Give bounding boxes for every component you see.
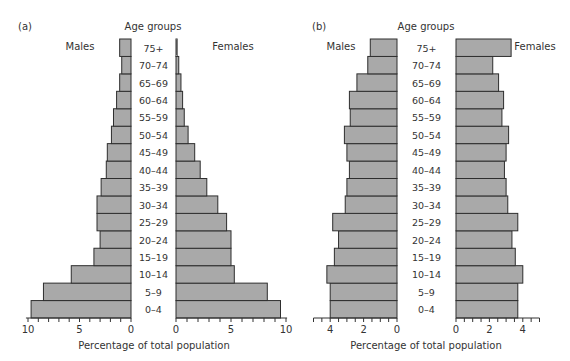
male-bar-0-4 xyxy=(330,301,397,318)
male-bar-25-29 xyxy=(97,213,131,230)
male-bar-65-69 xyxy=(120,74,131,91)
male-bar-25-29 xyxy=(333,213,397,230)
age-group-label: 20–24 xyxy=(412,235,441,246)
female-bar-60-64 xyxy=(456,91,504,108)
male-bar-75+ xyxy=(120,39,131,56)
female-bar-30-34 xyxy=(176,196,218,213)
panel-b-age-labels: 0–45–910–1415–1920–2425–2930–3435–3940–4… xyxy=(412,43,441,316)
x-tick-label: 5 xyxy=(76,324,82,335)
age-group-label: 75+ xyxy=(143,43,163,54)
male-bar-45-49 xyxy=(107,144,131,161)
age-group-label: 35–39 xyxy=(139,182,168,193)
male-bar-50-54 xyxy=(344,126,397,143)
x-tick-label: 5 xyxy=(228,324,234,335)
population-pyramids-figure: (a) Age groups Males Females 0–45–910–14… xyxy=(0,0,570,361)
panel-a-males-label: Males xyxy=(66,41,95,52)
female-bar-35-39 xyxy=(176,179,207,196)
male-bar-10-14 xyxy=(327,266,397,283)
x-tick-label: 0 xyxy=(128,324,134,335)
female-bar-30-34 xyxy=(456,196,508,213)
age-group-label: 50–54 xyxy=(139,130,168,141)
female-bar-0-4 xyxy=(176,301,281,318)
age-group-label: 55–59 xyxy=(412,112,441,123)
x-tick-label: 4 xyxy=(327,324,333,335)
x-tick-label: 0 xyxy=(173,324,179,335)
male-bar-40-44 xyxy=(106,161,131,178)
male-bar-70-74 xyxy=(368,56,397,73)
male-bar-65-69 xyxy=(357,74,397,91)
age-group-label: 5–9 xyxy=(145,287,162,298)
female-bar-50-54 xyxy=(176,126,188,143)
x-tick-label: 10 xyxy=(22,324,35,335)
age-group-label: 55–59 xyxy=(139,112,168,123)
age-group-label: 70–74 xyxy=(139,60,168,71)
panel-a-label: (a) xyxy=(18,21,32,32)
female-bar-45-49 xyxy=(456,144,506,161)
male-bar-0-4 xyxy=(31,301,131,318)
female-bar-20-24 xyxy=(176,231,231,248)
male-bar-5-9 xyxy=(330,283,397,300)
male-bar-5-9 xyxy=(43,283,131,300)
age-group-label: 65–69 xyxy=(139,78,168,89)
female-bar-0-4 xyxy=(456,301,518,318)
age-group-label: 45–49 xyxy=(412,147,441,158)
male-bar-50-54 xyxy=(111,126,131,143)
age-group-label: 10–14 xyxy=(139,269,168,280)
female-bar-65-69 xyxy=(176,74,181,91)
male-bar-45-49 xyxy=(347,144,397,161)
male-bar-30-34 xyxy=(97,196,131,213)
age-group-label: 25–29 xyxy=(412,217,441,228)
female-bar-25-29 xyxy=(176,213,227,230)
age-group-label: 10–14 xyxy=(412,269,441,280)
panel-b-males-label: Males xyxy=(327,41,356,52)
female-bar-15-19 xyxy=(456,248,515,265)
male-bar-70-74 xyxy=(122,56,131,73)
age-group-label: 50–54 xyxy=(412,130,441,141)
age-group-label: 75+ xyxy=(416,43,436,54)
age-group-label: 30–34 xyxy=(412,200,441,211)
panel-b-females-label: Females xyxy=(514,41,555,52)
panel-b-title: Age groups xyxy=(398,21,455,32)
male-bar-15-19 xyxy=(94,248,131,265)
x-tick-label: 10 xyxy=(280,324,293,335)
female-bar-15-19 xyxy=(176,248,231,265)
panel-a-title: Age groups xyxy=(125,21,182,32)
age-group-label: 35–39 xyxy=(412,182,441,193)
panel-a: (a) Age groups Males Females 0–45–910–14… xyxy=(18,21,292,351)
female-bar-40-44 xyxy=(456,161,504,178)
male-bar-20-24 xyxy=(100,231,131,248)
female-bar-50-54 xyxy=(456,126,509,143)
male-bar-40-44 xyxy=(349,161,397,178)
female-bar-5-9 xyxy=(176,283,267,300)
x-tick-label: 2 xyxy=(486,324,492,335)
male-bar-60-64 xyxy=(117,91,131,108)
panel-a-females-label: Females xyxy=(212,41,253,52)
male-bar-15-19 xyxy=(334,248,397,265)
age-group-label: 60–64 xyxy=(412,95,441,106)
male-bar-30-34 xyxy=(345,196,397,213)
female-bar-75+ xyxy=(456,39,511,56)
age-group-label: 15–19 xyxy=(412,252,441,263)
male-bar-10-14 xyxy=(71,266,131,283)
panel-b-label: (b) xyxy=(312,21,326,32)
panel-b-x-axis-title: Percentage of total population xyxy=(350,340,502,351)
panel-a-x-axis: 10105500 xyxy=(22,318,293,335)
age-group-label: 20–24 xyxy=(139,235,168,246)
panel-a-age-labels: 0–45–910–1415–1920–2425–2930–3435–3940–4… xyxy=(139,43,168,316)
x-tick-label: 0 xyxy=(453,324,459,335)
male-bar-20-24 xyxy=(339,231,397,248)
female-bar-40-44 xyxy=(176,161,200,178)
panel-a-x-axis-title: Percentage of total population xyxy=(78,340,230,351)
x-tick-label: 4 xyxy=(520,324,526,335)
x-tick-label: 2 xyxy=(360,324,366,335)
panel-b-x-axis: 442200 xyxy=(314,318,540,335)
age-group-label: 40–44 xyxy=(139,165,168,176)
female-bar-70-74 xyxy=(176,56,179,73)
female-bar-25-29 xyxy=(456,213,518,230)
female-bar-35-39 xyxy=(456,179,506,196)
age-group-label: 5–9 xyxy=(418,287,435,298)
male-bar-35-39 xyxy=(101,179,131,196)
female-bar-20-24 xyxy=(456,231,512,248)
age-group-label: 30–34 xyxy=(139,200,168,211)
age-group-label: 40–44 xyxy=(412,165,441,176)
